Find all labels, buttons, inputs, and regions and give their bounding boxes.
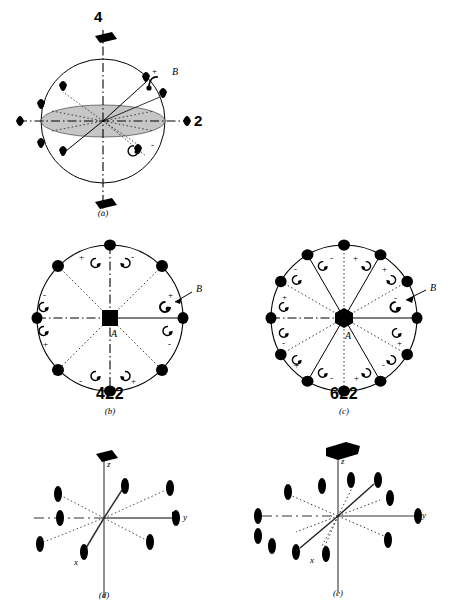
lens-marker-e-10: [318, 478, 326, 494]
panel-c-sign-11: -: [294, 264, 297, 274]
two-fold-marker-sw: [52, 364, 64, 376]
two-fold-marker-nw: [52, 260, 64, 272]
diag-axis-8-e: [338, 500, 380, 516]
lens-marker-d-7: [146, 534, 154, 550]
two-fold-marker-c-10: [275, 276, 287, 288]
lens-marker-e-01: [254, 508, 262, 524]
diag-axis-2-d: [62, 496, 104, 518]
six-fold-hexagon-center-622: [335, 308, 353, 328]
two-fold-lens-left: [16, 116, 24, 126]
lens-marker-e-04: [347, 472, 355, 488]
lens-marker-d-4: [54, 486, 62, 502]
panel-a-sphere: 4 2 B + - (a): [0, 0, 234, 225]
panel-e-axes-622: z y x (e): [234, 440, 468, 601]
two-fold-marker-c-05: [375, 376, 387, 387]
two-fold-lens-right: [183, 116, 191, 126]
two-fold-marker-c-07: [302, 376, 314, 387]
panel-b-label-A: A: [111, 328, 117, 339]
panel-d-label-x: x: [74, 557, 78, 567]
pole-comma-c-05: [387, 356, 396, 365]
panel-e-label-z: z: [341, 456, 345, 466]
pole-comma-c-06: [362, 369, 371, 378]
panel-d-label-z: z: [107, 459, 111, 469]
leader-line-b-422: [175, 292, 192, 302]
two-fold-marker-c-03: [412, 312, 423, 324]
pole-comma-c-00: [318, 262, 327, 271]
panel-c-group-label: 622: [314, 385, 374, 403]
panel-a-label-4: 4: [94, 8, 102, 25]
diag-axis-6-e: [338, 516, 384, 536]
panel-c-sign-02: +: [382, 264, 387, 274]
diag-axis-1-d: [104, 490, 122, 518]
lens-marker-d-3: [121, 478, 129, 494]
pole-comma-c-11: [292, 276, 301, 285]
panel-b-group-label: 422: [80, 385, 140, 403]
diag-axis-4-d: [44, 518, 104, 542]
panel-c-sign-08: +: [294, 360, 299, 370]
panel-b-sign-e-minus: -: [168, 339, 171, 349]
pole-lens-left-upper: [37, 99, 45, 109]
pole-comma-c-09: [279, 329, 288, 338]
panel-c-sign-07: -: [330, 373, 333, 383]
pole-comma-c-03: [390, 302, 400, 312]
panel-a-sign-minus: -: [151, 140, 154, 150]
four-fold-symbol-top: [95, 32, 117, 43]
diag-axis-7-e: [296, 516, 338, 532]
panel-b-sign-e-plus: +: [168, 290, 173, 300]
lens-marker-d-0: [172, 510, 180, 526]
diag-axis-3-e: [338, 484, 354, 516]
panel-b-sign-w-minus: -: [43, 290, 46, 300]
lens-marker-e-06: [284, 484, 292, 500]
leader-arrowhead-b-622: [406, 296, 414, 303]
diag-axis-1-e: [338, 484, 374, 516]
panel-c-sign-09: -: [282, 338, 285, 348]
pole-comma-c-04: [392, 329, 401, 338]
panel-c-sign-05: -: [382, 360, 385, 370]
lens-marker-e-03: [292, 544, 300, 560]
lens-marker-e-02: [374, 472, 382, 488]
panel-d-axes-422: z y x (d): [0, 440, 234, 601]
lens-marker-d-6: [36, 536, 44, 552]
panel-d-drawing: [0, 440, 234, 601]
x-axis-line-d: [86, 518, 104, 548]
two-fold-marker-se: [156, 364, 168, 376]
panel-a-label-2: 2: [194, 112, 202, 129]
two-fold-marker-c-01: [375, 249, 387, 260]
pole-lens-upper-left: [59, 81, 67, 91]
two-fold-marker-c-08: [275, 349, 287, 361]
diag-axis-5-d: [104, 518, 146, 540]
diag-axis-5-e: [292, 496, 338, 516]
panel-c-label-A: A: [345, 330, 351, 341]
two-fold-marker-n: [104, 240, 116, 251]
lens-marker-d-2: [80, 544, 88, 560]
panel-c-stereogram-622: B A + - + - + - + - + - + - 622 (c): [234, 230, 468, 430]
lens-marker-d-1: [56, 510, 64, 526]
panel-d-caption: (d): [84, 590, 124, 600]
pole-pair-east: [160, 302, 172, 335]
diag-axis-2-e: [300, 516, 338, 548]
panel-c-sign-06: +: [354, 373, 359, 383]
panel-b-sign-w-plus: +: [43, 339, 48, 349]
panel-c-label-B: B: [430, 282, 436, 293]
panel-c-drawing: [234, 230, 468, 405]
panel-c-sign-01: -: [330, 253, 333, 263]
four-fold-square-center-422: [102, 310, 118, 326]
panel-c-sign-03: -: [394, 293, 397, 303]
panel-c-caption: (c): [324, 406, 364, 416]
panel-a-caption: (a): [83, 208, 123, 218]
panel-b-drawing: [0, 230, 234, 405]
two-fold-marker-c-11: [302, 249, 314, 260]
lens-marker-d-5: [166, 480, 174, 496]
pole-comma-c-02: [387, 276, 396, 285]
lens-marker-e-08: [254, 528, 262, 544]
panel-b-sign-n-minus: -: [131, 252, 134, 262]
panel-a-label-B: B: [172, 66, 178, 77]
panel-e-label-x: x: [310, 555, 314, 565]
two-fold-marker-e: [178, 312, 189, 324]
panel-b-caption: (b): [90, 406, 130, 416]
two-fold-marker-c-00: [338, 240, 350, 251]
pole-comma-c-10: [279, 303, 288, 312]
pole-comma-c-01: [362, 262, 371, 271]
panel-e-caption: (e): [318, 588, 358, 598]
two-fold-marker-c-02: [401, 276, 413, 288]
